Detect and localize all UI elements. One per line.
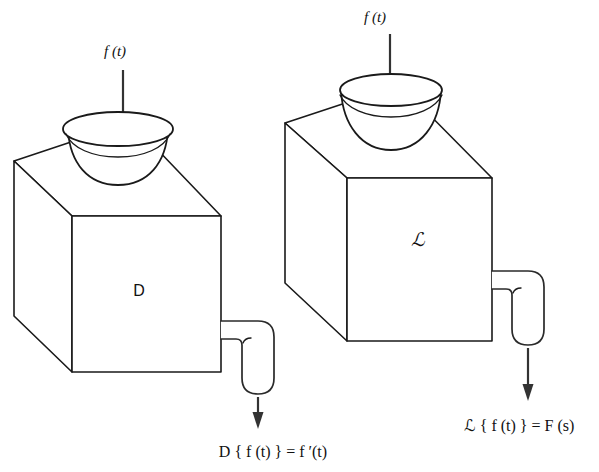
arrow-head bbox=[253, 412, 264, 429]
left-output-arrow bbox=[253, 397, 264, 429]
funnel-rim-outer bbox=[340, 74, 442, 106]
figure-root: f (t) D bbox=[0, 0, 599, 472]
spout-pipe-icon bbox=[221, 321, 274, 394]
cube-front-face bbox=[72, 216, 221, 372]
right-spout bbox=[492, 271, 544, 345]
left-output-caption: D { f (t) } = f ′(t) bbox=[219, 443, 327, 461]
right-input-label: f (t) bbox=[364, 9, 386, 26]
left-box-label: D bbox=[133, 282, 145, 299]
arrow-head bbox=[523, 384, 534, 401]
operator-diagram: f (t) D bbox=[0, 0, 599, 472]
left-spout bbox=[221, 321, 274, 394]
funnel-rim-outer bbox=[63, 112, 173, 146]
right-output-caption: ℒ { f (t) } = F (s) bbox=[464, 417, 575, 435]
spout-pipe-icon bbox=[492, 271, 544, 345]
left-input-label: f (t) bbox=[104, 43, 126, 60]
right-box-label: ℒ bbox=[411, 229, 426, 250]
right-output-arrow bbox=[523, 348, 534, 401]
cube-front-face bbox=[347, 178, 492, 341]
